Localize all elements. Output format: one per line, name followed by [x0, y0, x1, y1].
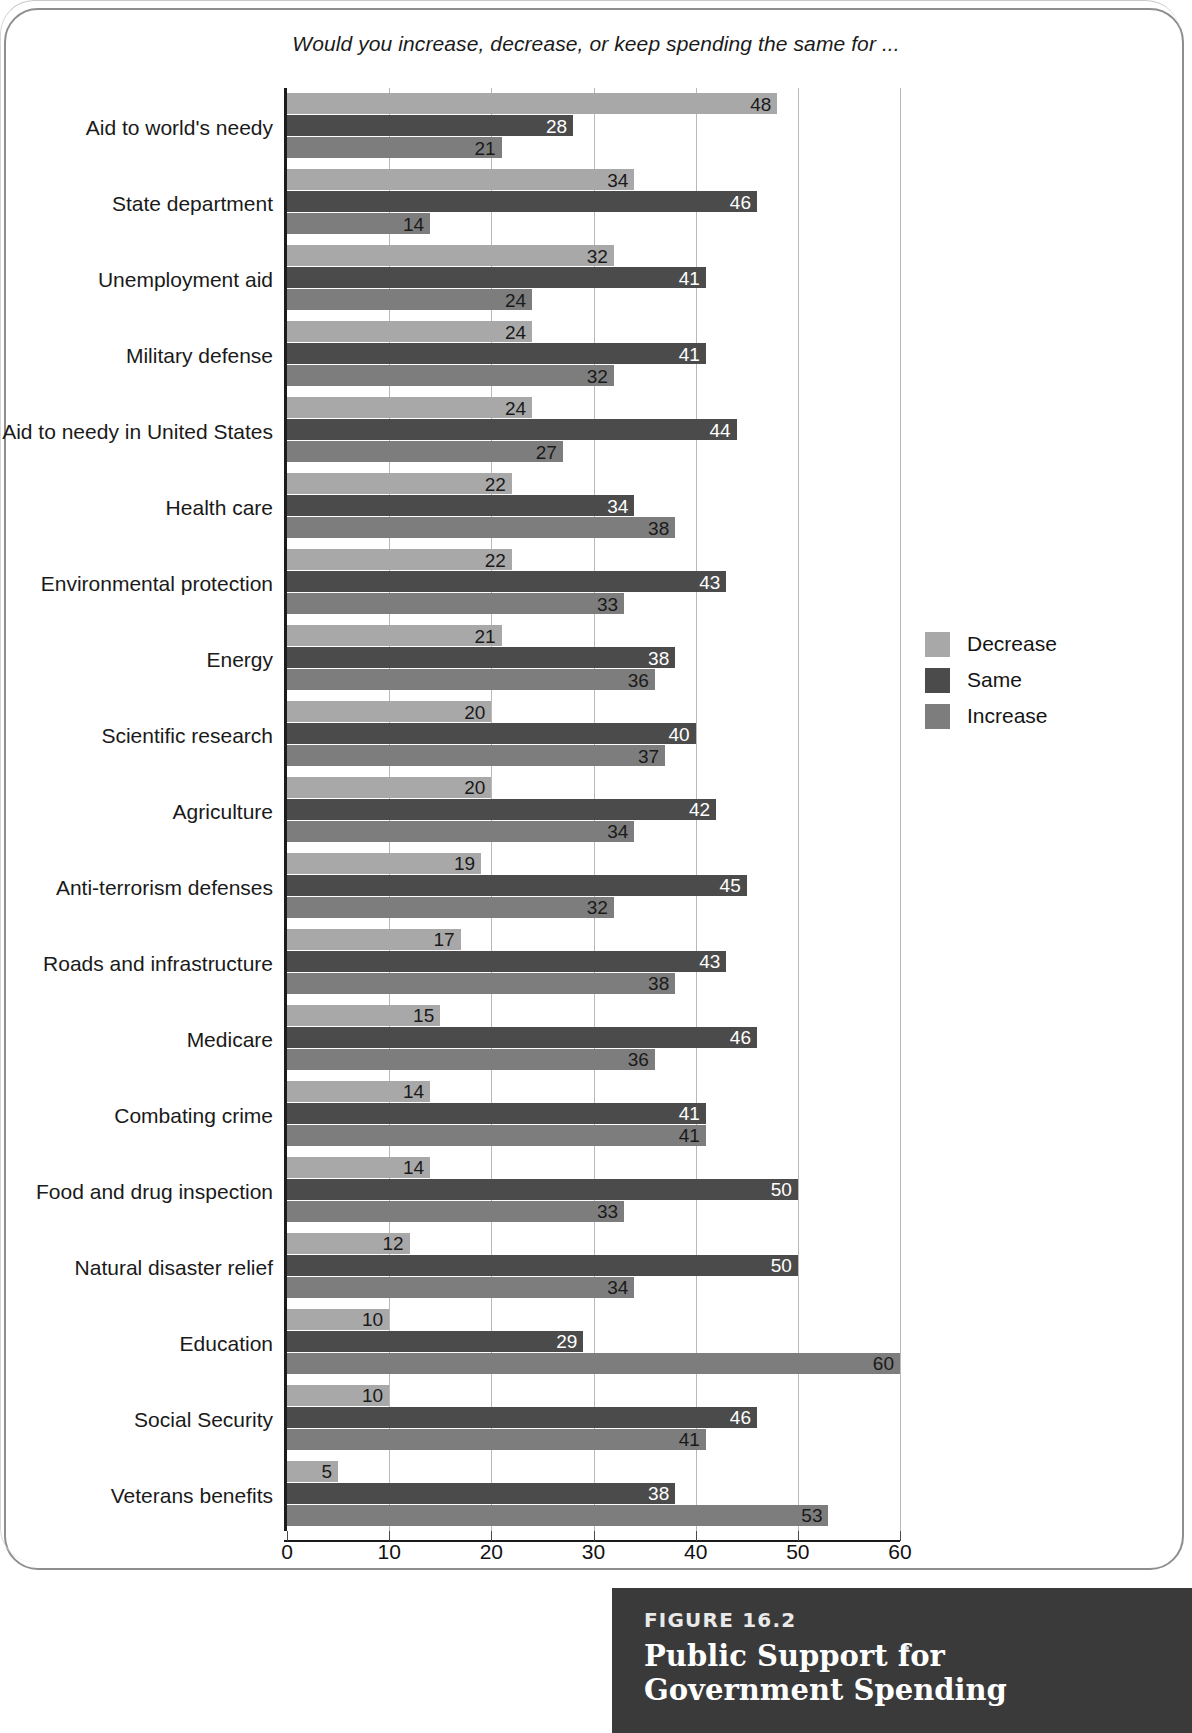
- bar-same[interactable]: 38: [287, 647, 675, 668]
- legend-label: Same: [967, 668, 1022, 692]
- x-tick-label: 10: [377, 1540, 400, 1564]
- bar-same[interactable]: 43: [287, 571, 726, 592]
- bar-value-label: 46: [730, 1408, 751, 1427]
- bar-increase[interactable]: 37: [287, 745, 665, 766]
- bar-increase[interactable]: 36: [287, 1049, 655, 1070]
- bar-value-label: 12: [382, 1234, 403, 1253]
- bar-value-label: 53: [801, 1506, 822, 1525]
- bar-same[interactable]: 29: [287, 1331, 583, 1352]
- bar-same[interactable]: 41: [287, 267, 706, 288]
- bar-group: Agriculture204234: [287, 772, 900, 848]
- bar-increase[interactable]: 32: [287, 365, 614, 386]
- bar-decrease[interactable]: 14: [287, 1157, 430, 1178]
- bar-increase[interactable]: 34: [287, 1277, 634, 1298]
- bar-value-label: 34: [607, 496, 628, 515]
- bar-decrease[interactable]: 22: [287, 473, 512, 494]
- bar-group: Aid to needy in United States244427: [287, 392, 900, 468]
- bar-increase[interactable]: 33: [287, 593, 624, 614]
- bar-decrease[interactable]: 32: [287, 245, 614, 266]
- bar-decrease[interactable]: 20: [287, 701, 491, 722]
- bar-same[interactable]: 40: [287, 723, 696, 744]
- figure-number: FIGURE 16.2: [644, 1608, 1192, 1632]
- bar-same[interactable]: 46: [287, 191, 757, 212]
- bar-decrease[interactable]: 22: [287, 549, 512, 570]
- bar-same[interactable]: 42: [287, 799, 716, 820]
- bar-value-label: 37: [638, 746, 659, 765]
- bar-value-label: 36: [628, 670, 649, 689]
- bar-value-label: 14: [403, 1158, 424, 1177]
- legend-item-decrease[interactable]: Decrease: [925, 626, 1125, 662]
- bar-decrease[interactable]: 12: [287, 1233, 410, 1254]
- x-tick-label: 30: [582, 1540, 605, 1564]
- bar-value-label: 21: [474, 626, 495, 645]
- bar-increase[interactable]: 34: [287, 821, 634, 842]
- bar-same[interactable]: 46: [287, 1027, 757, 1048]
- bar-increase[interactable]: 14: [287, 213, 430, 234]
- bar-value-label: 27: [536, 442, 557, 461]
- caption-dot: [905, 1646, 909, 1650]
- bar-same[interactable]: 45: [287, 875, 747, 896]
- bar-increase[interactable]: 36: [287, 669, 655, 690]
- bar-value-label: 48: [750, 94, 771, 113]
- legend-label: Increase: [967, 704, 1048, 728]
- bar-decrease[interactable]: 19: [287, 853, 481, 874]
- bar-increase[interactable]: 53: [287, 1505, 828, 1526]
- bar-same[interactable]: 28: [287, 115, 573, 136]
- category-label: Scientific research: [0, 724, 287, 748]
- bar-increase[interactable]: 41: [287, 1429, 706, 1450]
- bar-decrease[interactable]: 21: [287, 625, 502, 646]
- category-label: Aid to world's needy: [0, 116, 287, 140]
- bar-value-label: 41: [679, 1104, 700, 1123]
- bar-increase[interactable]: 21: [287, 137, 502, 158]
- category-label: Roads and infrastructure: [0, 952, 287, 976]
- bar-group: State department344614: [287, 164, 900, 240]
- category-label: Health care: [0, 496, 287, 520]
- bar-group: Roads and infrastructure174338: [287, 923, 900, 999]
- bar-decrease[interactable]: 10: [287, 1309, 389, 1330]
- bar-decrease[interactable]: 20: [287, 777, 491, 798]
- bar-same[interactable]: 34: [287, 495, 634, 516]
- bar-group: Aid to world's needy482821: [287, 88, 900, 164]
- legend-item-same[interactable]: Same: [925, 662, 1125, 698]
- bar-increase[interactable]: 41: [287, 1125, 706, 1146]
- chart-plot-area: 0102030405060Aid to world's needy482821S…: [287, 88, 900, 1531]
- bar-decrease[interactable]: 24: [287, 321, 532, 342]
- category-label: Military defense: [0, 344, 287, 368]
- bar-decrease[interactable]: 10: [287, 1385, 389, 1406]
- bar-value-label: 33: [597, 1202, 618, 1221]
- bar-increase[interactable]: 60: [287, 1353, 900, 1374]
- bar-value-label: 17: [434, 930, 455, 949]
- bar-increase[interactable]: 32: [287, 897, 614, 918]
- legend-item-increase[interactable]: Increase: [925, 698, 1125, 734]
- bar-value-label: 14: [403, 1082, 424, 1101]
- bar-same[interactable]: 44: [287, 419, 737, 440]
- bar-same[interactable]: 50: [287, 1255, 798, 1276]
- bar-increase[interactable]: 27: [287, 441, 563, 462]
- bar-value-label: 50: [771, 1256, 792, 1275]
- bar-same[interactable]: 46: [287, 1407, 757, 1428]
- bar-value-label: 50: [771, 1180, 792, 1199]
- bar-decrease[interactable]: 5: [287, 1461, 338, 1482]
- bar-same[interactable]: 41: [287, 1103, 706, 1124]
- bar-decrease[interactable]: 48: [287, 93, 777, 114]
- bar-increase[interactable]: 38: [287, 517, 675, 538]
- bar-decrease[interactable]: 17: [287, 929, 461, 950]
- bar-value-label: 45: [720, 876, 741, 895]
- bar-group: Social Security104641: [287, 1379, 900, 1455]
- bar-same[interactable]: 43: [287, 951, 726, 972]
- bar-increase[interactable]: 33: [287, 1201, 624, 1222]
- bar-decrease[interactable]: 14: [287, 1081, 430, 1102]
- bar-same[interactable]: 50: [287, 1179, 798, 1200]
- bar-decrease[interactable]: 24: [287, 397, 532, 418]
- bar-decrease[interactable]: 15: [287, 1005, 440, 1026]
- bar-same[interactable]: 41: [287, 343, 706, 364]
- bar-group: Health care223438: [287, 468, 900, 544]
- bar-increase[interactable]: 38: [287, 973, 675, 994]
- legend-swatch-icon: [925, 668, 950, 693]
- category-label: Natural disaster relief: [0, 1256, 287, 1280]
- bar-same[interactable]: 38: [287, 1483, 675, 1504]
- bar-value-label: 40: [669, 724, 690, 743]
- bar-value-label: 33: [597, 594, 618, 613]
- bar-decrease[interactable]: 34: [287, 169, 634, 190]
- bar-increase[interactable]: 24: [287, 289, 532, 310]
